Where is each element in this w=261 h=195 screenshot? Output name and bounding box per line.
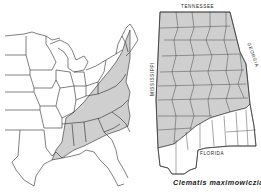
label-mississippi: MISSISSIPPI — [150, 62, 155, 96]
range-map — [0, 0, 261, 195]
label-tennessee: TENNESSEE — [181, 4, 214, 9]
eastern-us-map — [5, 24, 138, 186]
label-florida: FLORIDA — [200, 151, 224, 156]
map-caption: Clematis maximowicziana — [173, 178, 261, 187]
alabama-county-map — [156, 12, 256, 174]
